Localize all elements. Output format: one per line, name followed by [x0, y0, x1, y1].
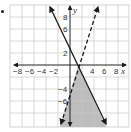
svg-text:−8: −8 — [13, 67, 23, 76]
coordinate-graph: −8 −6 −4 −2 4 6 8 x 8 6 2 −4 −6 y — [0, 0, 131, 132]
svg-text:−6: −6 — [25, 67, 35, 76]
svg-text:2: 2 — [63, 49, 68, 58]
svg-text:−6: −6 — [58, 97, 68, 106]
svg-text:8: 8 — [63, 13, 68, 22]
x-axis-label: x — [120, 66, 125, 76]
svg-text:4: 4 — [90, 67, 95, 76]
y-axis-label: y — [72, 5, 77, 15]
svg-text:8: 8 — [114, 67, 119, 76]
svg-text:−4: −4 — [58, 85, 68, 94]
svg-text:−4: −4 — [37, 67, 47, 76]
svg-text:−2: −2 — [49, 67, 59, 76]
svg-text:6: 6 — [63, 25, 68, 34]
svg-text:6: 6 — [102, 67, 107, 76]
